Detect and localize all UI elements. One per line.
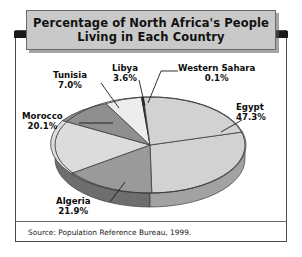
pie-label-tunisia-value: 7.0% (53, 80, 87, 90)
pie-label-tunisia: Tunisia 7.0% (53, 70, 87, 90)
pie-label-western-sahara-name: Western Sahara (178, 63, 255, 73)
pie-label-egypt-name: Egypt (236, 102, 266, 112)
pie-label-western-sahara: Western Sahara 0.1% (178, 63, 255, 83)
pie-label-algeria: Algeria 21.9% (56, 196, 91, 216)
pie-label-egypt-value: 47.3% (236, 112, 266, 122)
pie-label-morocco-value: 20.1% (22, 121, 63, 131)
source-row: Source: Population Reference Bureau, 199… (15, 221, 287, 242)
pie-label-tunisia-name: Tunisia (53, 70, 87, 80)
pie-label-algeria-value: 21.9% (56, 206, 91, 216)
pie-label-western-sahara-value: 0.1% (178, 73, 255, 83)
pie-label-libya-name: Libya (112, 63, 138, 73)
chart-title-banner: Percentage of North Africa's People Livi… (26, 10, 276, 50)
pie-label-morocco: Morocco 20.1% (22, 111, 63, 131)
chart-title-line-1: Percentage of North Africa's People (33, 16, 269, 30)
pie-label-egypt: Egypt 47.3% (236, 102, 266, 122)
pie-label-morocco-name: Morocco (22, 111, 63, 121)
pie-label-algeria-name: Algeria (56, 196, 91, 206)
chart-title: Percentage of North Africa's People Livi… (29, 16, 273, 45)
pie-label-libya-value: 3.6% (112, 73, 138, 83)
source-text: Source: Population Reference Bureau, 199… (15, 228, 191, 237)
chart-title-line-2: Living in Each Country (33, 30, 269, 44)
pie-label-libya: Libya 3.6% (112, 63, 138, 83)
